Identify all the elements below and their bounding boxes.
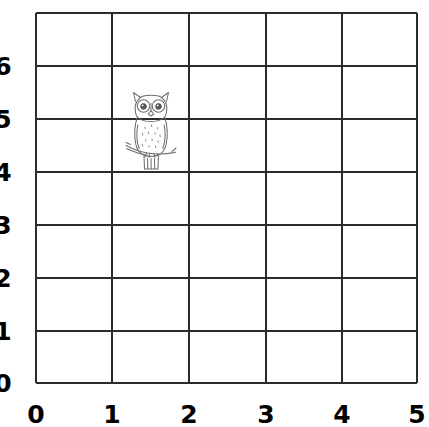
coordinate-grid-worksheet: 6 5 4 3 2 1 0 0 1 2 3 4 5 [0,0,429,427]
y-tick-label-4: 4 [0,160,16,185]
x-tick-label-1: 1 [97,402,127,427]
x-tick-label-3: 3 [251,402,281,427]
x-tick-label-2: 2 [174,402,204,427]
y-tick-label-0: 0 [0,371,16,396]
x-tick-label-5: 5 [402,402,429,427]
grid-lines [35,12,418,384]
plot-area: 6 5 4 3 2 1 0 0 1 2 3 4 5 [35,12,418,384]
x-tick-label-0: 0 [21,402,51,427]
x-tick-label-4: 4 [327,402,357,427]
y-tick-label-6: 6 [0,54,16,79]
y-tick-label-3: 3 [0,213,16,238]
y-tick-label-1: 1 [0,319,16,344]
y-tick-label-2: 2 [0,266,16,291]
owl-icon [125,88,177,172]
y-tick-label-5: 5 [0,107,16,132]
